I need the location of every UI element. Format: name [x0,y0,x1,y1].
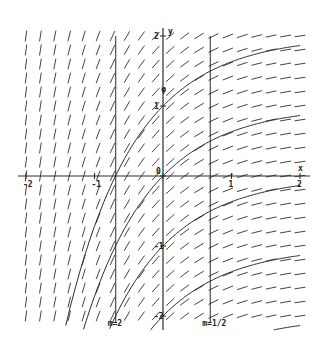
slope-segment [223,62,233,66]
slope-segment [96,31,100,41]
slope-segment [251,161,262,164]
slope-segment [180,313,189,320]
slope-segment [266,77,277,79]
slope-segment [194,33,203,39]
slope-segment [251,63,262,66]
slope-segment [280,147,291,149]
slope-segment [124,255,130,265]
slope-segment [194,75,203,81]
slope-segment [110,87,115,97]
slope-segment [280,315,291,317]
slope-segment [280,231,291,233]
slope-segment [96,59,100,69]
slope-segment [96,199,100,209]
slope-segment [223,216,233,220]
slope-segment [68,101,71,112]
slope-segment [152,74,159,82]
slope-segment [166,214,174,221]
slope-segment [280,259,291,261]
slope-segment [237,160,247,163]
slope-segment [295,119,306,121]
solution-curve [274,326,300,330]
slope-segment [166,102,174,109]
slope-segment [237,132,247,135]
slope-segment [194,215,203,221]
slope-segment [194,103,203,109]
slope-segment [138,298,144,307]
slope-segment [180,131,189,138]
slope-segment [124,185,130,195]
slope-segment [82,185,85,196]
slope-segment [152,298,159,306]
slope-segment [82,227,85,238]
coordinate-axes [18,28,310,330]
slope-segment [166,158,174,165]
slope-segment [110,269,115,279]
slope-segment [110,213,115,223]
y-tick-label: -1 [154,242,164,251]
slope-segment [194,89,203,95]
slope-segment [295,245,306,247]
slope-segment [223,76,233,80]
slope-segment [237,230,247,233]
slope-segment [25,115,26,126]
slope-segment [138,60,144,69]
slope-segment [180,187,189,194]
slope-segment [266,231,277,233]
slope-segment [68,227,71,238]
slope-segment [54,115,56,126]
slope-segment [251,147,262,150]
slope-segment [266,301,277,303]
slope-segment [124,129,130,139]
slope-segment [280,203,291,205]
slope-segment [110,297,115,307]
slope-segment [166,228,174,235]
slope-segment [152,130,159,138]
slope-segment [96,227,100,237]
slope-segment [280,217,291,219]
slope-segment [40,143,42,154]
y-axis-label: y [168,27,173,36]
slope-segment [166,74,174,81]
isocline-label: m=1/2 [202,319,226,328]
slope-segment [295,161,306,163]
y-tick-label: 2 [154,32,159,41]
slope-segment [251,77,262,80]
slope-segment [280,133,291,135]
slope-segment [138,102,144,111]
slope-segment [124,45,130,55]
slope-segment [25,129,26,140]
slope-segment [223,48,233,52]
slope-segment [295,133,306,135]
slope-segment [68,241,71,252]
slope-segment [180,145,189,152]
slope-segment [40,185,42,196]
slope-segment [124,87,130,97]
slope-segment [280,189,291,191]
slope-segment [138,270,144,279]
slope-segment [54,101,56,112]
slope-segment [194,117,203,123]
slope-segment [280,161,291,163]
slope-segment [25,199,26,210]
slope-segment [25,87,26,98]
slope-segment [138,186,144,195]
slope-segment [180,243,189,250]
slope-segment [54,269,56,280]
slope-segment [68,87,71,98]
slope-segment [68,157,71,168]
slope-segment [110,283,115,293]
slope-segment [266,63,277,65]
slope-segment [138,228,144,237]
slope-segment [40,241,42,252]
slope-segment [295,203,306,205]
slope-segment [152,144,159,152]
slope-segment [295,231,306,233]
slope-segment [295,105,306,107]
slope-segment [166,46,174,53]
slope-segment [237,216,247,219]
slope-segment [96,269,100,279]
slope-segment [25,269,26,280]
slope-segment [295,315,306,317]
slope-segment [280,63,291,65]
